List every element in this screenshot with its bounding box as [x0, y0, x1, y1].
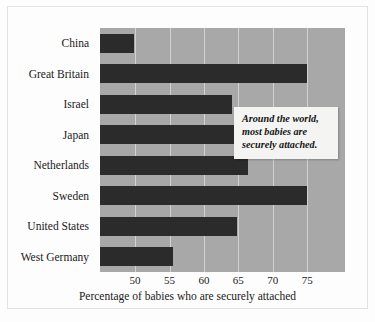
chart-figure: ChinaGreat BritainIsraelJapanNetherlands… — [0, 0, 375, 322]
x-axis-title: Percentage of babies who are securely at… — [0, 290, 375, 302]
bar-china — [100, 34, 134, 53]
annotation-callout: Around the world, most babies are secure… — [234, 107, 338, 159]
bar-japan — [100, 125, 251, 144]
bar-great-britain — [100, 64, 307, 83]
bar-west-germany — [100, 247, 173, 266]
y-label-china: China — [62, 28, 89, 59]
y-label-japan: Japan — [63, 120, 89, 151]
y-label-west-germany: West Germany — [21, 242, 89, 273]
y-label-united-states: United States — [27, 211, 89, 242]
callout-line-2: most babies are — [242, 126, 331, 139]
bar-row — [100, 59, 345, 90]
callout-line-1: Around the world, — [242, 113, 331, 126]
x-tick-65: 65 — [233, 274, 244, 286]
x-tick-55: 55 — [164, 274, 175, 286]
bar-sweden — [100, 186, 307, 205]
x-tick-70: 70 — [267, 274, 278, 286]
callout-line-3: securely attached. — [242, 139, 331, 152]
bar-united-states — [100, 217, 237, 236]
x-axis-tick-labels: 505560657075 — [0, 274, 375, 290]
y-label-great-britain: Great Britain — [29, 59, 89, 90]
x-tick-60: 60 — [198, 274, 209, 286]
bar-row — [100, 211, 345, 242]
y-label-sweden: Sweden — [53, 181, 89, 212]
x-tick-75: 75 — [302, 274, 313, 286]
y-label-israel: Israel — [63, 89, 89, 120]
bar-netherlands — [100, 156, 248, 175]
bar-row — [100, 242, 345, 273]
y-label-netherlands: Netherlands — [33, 150, 89, 181]
x-tick-50: 50 — [130, 274, 141, 286]
bar-row — [100, 181, 345, 212]
bar-row — [100, 28, 345, 59]
bar-israel — [100, 95, 232, 114]
y-axis-category-labels: ChinaGreat BritainIsraelJapanNetherlands… — [0, 28, 95, 272]
